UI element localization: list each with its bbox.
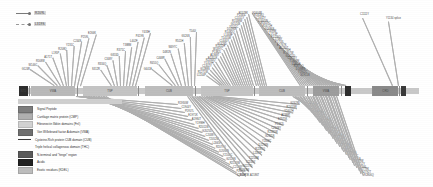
domain-segment-label: TSP	[107, 89, 112, 93]
mutation-label: G1426D	[197, 44, 227, 47]
domain-tick	[254, 86, 255, 96]
mutation-label: R2281Q	[235, 149, 265, 152]
domain-segment-label: VWA	[50, 89, 56, 93]
mutation-label: G1288S	[180, 69, 210, 72]
mutation-label: G2321S	[245, 136, 275, 139]
domain-segment: TSP	[201, 86, 253, 96]
mutation-label: D481N	[141, 52, 171, 55]
mutation-label: G124R	[0, 69, 30, 72]
domain-segment-label: CUB	[279, 89, 285, 93]
mutation-label: G1915S	[300, 75, 310, 78]
mutation-label: R2806Q	[364, 175, 374, 178]
legend-row: Signal Peptide	[18, 106, 122, 114]
mutation-label: R511H	[153, 41, 183, 44]
domain-segment	[401, 86, 407, 96]
mutation-label: C2038Y	[206, 135, 216, 138]
legend-row: Exotic residues (KDEL)	[18, 166, 122, 174]
mutation-label: T540I	[166, 31, 196, 34]
mutation-label: Y1998H	[195, 123, 205, 126]
mutation-label: W146C	[7, 65, 37, 68]
domain-segment: CUB	[259, 86, 305, 96]
mutation-label: R1334Q	[186, 60, 216, 63]
mutation-label: A2388T	[260, 115, 290, 118]
domain-segment-label: CUB	[166, 89, 172, 93]
line-legend-label: L319S	[34, 22, 46, 26]
mutation-stem	[119, 56, 121, 86]
legend-label: Triple helical collagenous domain (THC)	[35, 145, 89, 149]
domain-tick	[195, 86, 196, 96]
mutation-label: G526S	[160, 36, 190, 39]
mutation-label: P1382L	[191, 52, 221, 55]
mutation-label: C2348Y	[251, 128, 281, 131]
domain-segment-label: NTD	[21, 89, 27, 93]
domain-tick	[372, 86, 373, 96]
line-legend-item: L319S	[16, 20, 46, 28]
legend-row: Von Willebrand factor A domain (VWA)	[18, 128, 122, 136]
legend-label: Von Willebrand factor A domain (VWA)	[37, 130, 89, 134]
mutation-label: D2294N	[238, 145, 268, 148]
domain-tick	[29, 86, 30, 96]
domain-segment: VWA	[31, 86, 75, 96]
mutation-label: T388M	[101, 45, 131, 48]
mutation-label: D1496N	[207, 29, 237, 32]
mutation-label: A1984T	[192, 119, 201, 122]
legend-label: Cartilage matrix protein (CMP)	[37, 115, 78, 119]
legend-color-swatch	[18, 167, 33, 174]
mutation-label: C468R	[135, 58, 165, 61]
domain-legend: Signal PeptideCartilage matrix protein (…	[18, 99, 122, 174]
mutation-label: C1944Y	[181, 107, 191, 110]
domain-segment-label: TSP	[224, 89, 229, 93]
legend-color-swatch	[18, 113, 33, 120]
mutation-label: P1565L	[216, 15, 246, 18]
mutation-label: R1271W	[178, 72, 208, 75]
mutation-label: G1524S	[210, 24, 240, 27]
legend-label: Fibronectin Illdiiin domains (FnI)	[37, 122, 80, 126]
mutation-label: R455Q	[128, 63, 158, 66]
domain-segment-label: VWA	[323, 89, 329, 93]
legend-label: Cysteine-Rich protein CUB domain (CUB)	[35, 138, 92, 142]
line-legend-item: R209L	[16, 9, 46, 17]
mutation-label: R1930W	[178, 103, 188, 106]
bar-end-annotation: C1111Y	[360, 14, 369, 17]
mutation-label: L402F	[108, 41, 138, 44]
mutation-label: Y433H	[120, 32, 150, 35]
mutation-label: A171T	[22, 57, 52, 60]
mutation-label: E1351K	[187, 58, 217, 61]
mutation-label: W1397C	[193, 49, 223, 52]
mutation-label: A1368T	[189, 55, 219, 58]
mutation-label: Y1511C	[208, 27, 238, 30]
figure-canvas: R209L L319S NTDVWATSPCUBTSPCUBVWACRD G12…	[0, 0, 433, 187]
legend-color-swatch	[18, 121, 33, 128]
dashed-line-icon	[16, 24, 30, 25]
mutation-label: C1440Y	[199, 41, 229, 44]
mutation-label: R2415W	[267, 107, 297, 110]
legend-color-swatch	[18, 145, 31, 150]
domain-tick	[138, 86, 139, 96]
mutation-label: T2254M	[229, 158, 259, 161]
mutation-label: R2335W	[248, 132, 278, 135]
mutation-label: C2240Y	[226, 162, 256, 165]
mutation-label: E2375K	[257, 119, 287, 122]
mutation-label: P419S	[114, 36, 144, 39]
mutation-label: E1971K	[188, 115, 197, 118]
mutation-label: G441E	[122, 69, 152, 72]
mutation-label: E1578K	[218, 13, 248, 16]
mutation-label: R334Q	[76, 64, 106, 67]
mutation-label: P2362L	[254, 124, 284, 127]
mutation-label: G2025D	[202, 131, 212, 134]
legend-color-swatch	[18, 151, 33, 158]
domain-tick	[341, 86, 342, 96]
mutation-label: P1957L	[185, 111, 194, 114]
mutation-label: R1538W	[212, 21, 242, 24]
mutation-label: Y231C	[44, 45, 74, 48]
domain-segment: VWA	[313, 86, 339, 96]
mutation-label: G2429D	[270, 103, 300, 106]
mutation-label: R1482Q	[205, 32, 235, 35]
domain-segment: TSP	[83, 86, 137, 96]
domain-segment-label: CRD	[382, 89, 388, 93]
legend-row: Cysteine-Rich protein CUB domain (CUB)	[18, 136, 122, 144]
legend-label: Exotic residues (KDEL)	[37, 168, 69, 172]
mutation-label: L1244P	[176, 75, 206, 78]
domain-tick	[307, 86, 308, 96]
legend-color-swatch	[18, 129, 33, 136]
